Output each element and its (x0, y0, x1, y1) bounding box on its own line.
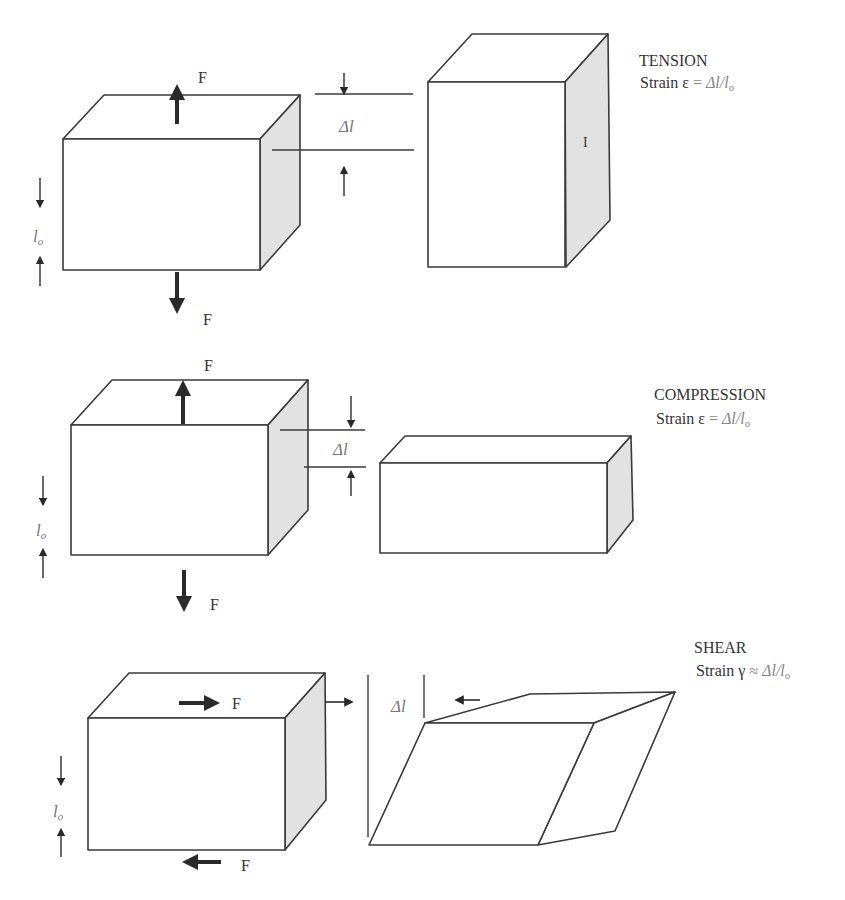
tension-formula: Strain ε = Δl/lo (640, 74, 735, 93)
delta-label: Δl (332, 440, 348, 459)
tension-section: F F lo Δl I TENSION Strain ε = Δl/lo (33, 34, 735, 328)
tension-original-block (63, 95, 300, 270)
force-label-top: F (198, 69, 207, 86)
tension-title: TENSION (639, 52, 708, 69)
strain-diagram: F F lo Δl I TENSION Strain ε = Δl/lo F (0, 0, 845, 900)
shear-deformed-block (369, 692, 675, 845)
shear-section: F F lo Δl SHEAR Strain γ ≈ Δl/lo (53, 639, 791, 874)
tension-stretched-block: I (428, 34, 610, 267)
compression-shortened-block (380, 436, 633, 553)
side-mark: I (583, 135, 588, 150)
delta-label: Δl (338, 117, 354, 136)
force-label-top: F (204, 357, 213, 374)
length-label: lo (33, 227, 44, 247)
compression-title: COMPRESSION (654, 386, 766, 403)
shear-formula: Strain γ ≈ Δl/lo (696, 662, 791, 681)
force-label-bottom: F (203, 311, 212, 328)
force-label-bottom: F (241, 857, 250, 874)
delta-label: Δl (390, 697, 406, 716)
force-label-top: F (232, 695, 241, 712)
length-label: lo (36, 521, 47, 541)
compression-original-block (71, 380, 308, 555)
length-label: lo (53, 802, 64, 822)
force-label-bottom: F (210, 596, 219, 613)
compression-section: F F lo Δl COMPRESSION Strain ε = Δl/lo (36, 357, 766, 613)
shear-title: SHEAR (694, 639, 747, 656)
compression-formula: Strain ε = Δl/lo (656, 410, 751, 429)
shear-original-block (88, 673, 326, 850)
